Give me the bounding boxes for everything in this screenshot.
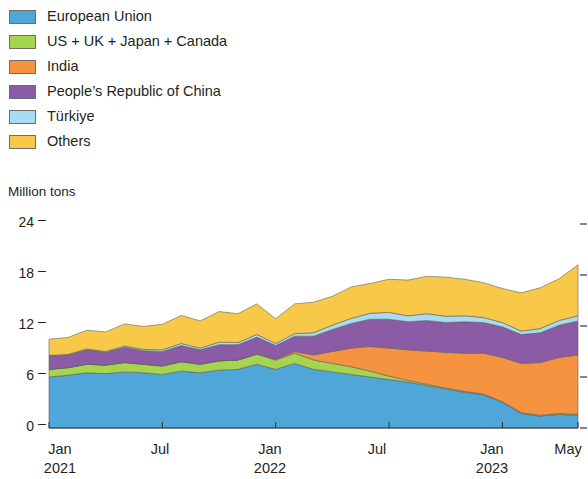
x-tick-label-jul: Jul xyxy=(368,440,387,459)
x-tick-month: Jan xyxy=(258,441,281,457)
x-tick-month: May xyxy=(554,441,581,457)
x-tick-month: Jul xyxy=(368,441,387,457)
legend-label-others: Others xyxy=(47,134,91,149)
y-tick-label-0: 0 xyxy=(8,418,34,434)
legend-swatch-usukjpca xyxy=(9,35,36,49)
y-axis-title: Million tons xyxy=(8,184,76,199)
legend-label-eu: European Union xyxy=(47,9,152,24)
legend-swatch-prc xyxy=(9,85,36,99)
x-tick-month: Jul xyxy=(151,441,170,457)
legend-item-turkiye: Türkiye xyxy=(9,104,339,129)
legend-item-india: India xyxy=(9,54,339,79)
legend-swatch-others xyxy=(9,135,36,149)
stacked-area-chart xyxy=(0,205,588,445)
x-tick-label-jul: Jul xyxy=(151,440,170,459)
y-tick-label-24: 24 xyxy=(8,214,34,230)
legend-item-eu: European Union xyxy=(9,4,339,29)
y-tick-dash: – xyxy=(38,313,46,329)
x-tick-month: Jan xyxy=(480,441,503,457)
y-tick-dash: – xyxy=(38,262,46,278)
legend-swatch-eu xyxy=(9,10,36,24)
chart-plot-area xyxy=(0,205,588,445)
x-tick-label-jan-2023: Jan2023 xyxy=(476,440,508,478)
legend-label-turkiye: Türkiye xyxy=(47,109,95,124)
x-tick-year: 2023 xyxy=(476,459,508,478)
legend-swatch-turkiye xyxy=(9,110,36,124)
legend-label-prc: People’s Republic of China xyxy=(47,84,221,99)
y-tick-label-6: 6 xyxy=(8,367,34,383)
legend-label-india: India xyxy=(47,59,78,74)
y-tick-dash: – xyxy=(38,415,46,431)
x-tick-month: Jan xyxy=(48,441,71,457)
x-tick-label-may: May xyxy=(554,440,581,459)
y-tick-label-12: 12 xyxy=(8,316,34,332)
legend-item-usukjpca: US + UK + Japan + Canada xyxy=(9,29,339,54)
legend-item-others: Others xyxy=(9,129,339,154)
y-tick-dash: – xyxy=(38,364,46,380)
x-tick-label-jan-2022: Jan2022 xyxy=(254,440,286,478)
legend-label-usukjpca: US + UK + Japan + Canada xyxy=(47,34,227,49)
x-tick-label-jan-2021: Jan2021 xyxy=(44,440,76,478)
x-tick-year: 2021 xyxy=(44,459,76,478)
legend-item-prc: People’s Republic of China xyxy=(9,79,339,104)
chart-legend: European UnionUS + UK + Japan + CanadaIn… xyxy=(9,4,339,154)
x-tick-year: 2022 xyxy=(254,459,286,478)
y-tick-dash: – xyxy=(38,211,46,227)
legend-swatch-india xyxy=(9,60,36,74)
y-tick-label-18: 18 xyxy=(8,265,34,281)
